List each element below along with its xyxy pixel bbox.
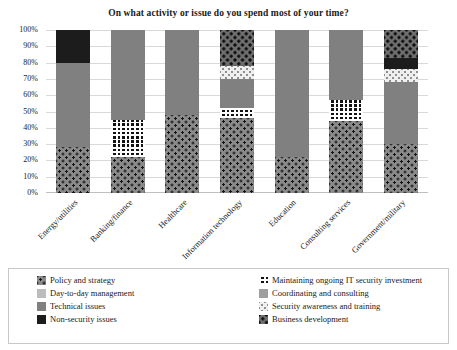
- legend-item-busdev: Business development: [259, 313, 422, 325]
- x-axis-tick-text: Energy/utilities: [36, 198, 79, 241]
- bar-segment-policy: [275, 157, 309, 193]
- x-axis-tick-text: Government/military: [350, 198, 407, 255]
- bar-segment-nonsecurity: [384, 58, 418, 69]
- legend-item-technical: Technical issues: [37, 300, 134, 312]
- y-axis-tick-label: 0%: [27, 189, 38, 197]
- legend-label: Security awareness and training: [272, 301, 380, 311]
- y-axis-tick-label: 60%: [23, 91, 38, 99]
- x-axis-tick-text: Education: [267, 198, 298, 229]
- x-axis-tick-text: Healthcare: [156, 198, 188, 230]
- x-axis-tick-text: Banking/finance: [88, 198, 134, 244]
- legend-label: Policy and strategy: [50, 275, 115, 285]
- legend-item-awareness: Security awareness and training: [259, 300, 422, 312]
- chart-title: On what activity or issue do you spend m…: [0, 8, 457, 18]
- legend-swatch-maintaining-icon: [259, 276, 268, 285]
- legend-item-maintaining: Maintaining ongoing IT security investme…: [259, 274, 422, 286]
- legend-item-coordinating: Coordinating and consulting: [259, 287, 422, 299]
- legend-swatch-daytoday-icon: [37, 289, 46, 298]
- stacked-bar-chart: On what activity or issue do you spend m…: [0, 0, 457, 350]
- bar-segment-busdev: [384, 30, 418, 58]
- bar-segment-technical: [111, 30, 145, 120]
- y-axis-tick-label: 100%: [19, 26, 38, 34]
- legend-swatch-coordinating-icon: [259, 289, 268, 298]
- bar-segment-awareness: [220, 66, 254, 79]
- bars-layer: [46, 30, 428, 193]
- legend-swatch-nonsecurity-icon: [37, 315, 46, 324]
- bar-segment-technical: [220, 79, 254, 108]
- y-axis-tick-label: 80%: [23, 59, 38, 67]
- bar-government-military: [384, 30, 418, 193]
- bar-segment-technical: [56, 63, 90, 148]
- y-axis-tick-label: 40%: [23, 124, 38, 132]
- legend-swatch-technical-icon: [37, 302, 46, 311]
- legend-item-nonsecurity: Non-security issues: [37, 313, 134, 325]
- bar-segment-maintaining: [111, 120, 145, 157]
- legend-label: Maintaining ongoing IT security investme…: [272, 275, 422, 285]
- legend-item-policy: Policy and strategy: [37, 274, 134, 286]
- bar-segment-technical: [275, 30, 309, 157]
- y-axis-tick-label: 30%: [23, 140, 38, 148]
- legend-column-right: Maintaining ongoing IT security investme…: [259, 274, 422, 326]
- bar-segment-policy: [329, 121, 363, 193]
- x-axis-labels: Energy/utilitiesBanking/financeHealthcar…: [46, 196, 428, 264]
- legend-label: Technical issues: [50, 301, 105, 311]
- bar-segment-maintaining: [329, 100, 363, 121]
- legend-swatch-policy-icon: [37, 276, 46, 285]
- y-axis: 100%90%80%70%60%50%40%30%20%10%0%: [0, 30, 42, 193]
- bar-segment-policy: [165, 115, 199, 193]
- legend-label: Non-security issues: [50, 314, 117, 324]
- y-axis-tick-label: 90%: [23, 42, 38, 50]
- bar-segment-maintaining: [220, 108, 254, 118]
- chart-legend: Policy and strategyDay-to-day management…: [8, 268, 449, 344]
- x-axis-tick-text: Consulting services: [299, 198, 353, 252]
- bar-healthcare: [165, 30, 199, 193]
- y-axis-tick-label: 20%: [23, 156, 38, 164]
- bar-segment-awareness: [384, 69, 418, 82]
- legend-label: Day-to-day management: [50, 288, 134, 298]
- y-axis-tick-label: 10%: [23, 173, 38, 181]
- bar-information-technology: [220, 30, 254, 193]
- bar-segment-technical: [329, 30, 363, 100]
- x-axis-tick-text: Information technology: [180, 198, 243, 261]
- bar-segment-policy: [384, 144, 418, 193]
- legend-swatch-awareness-icon: [259, 302, 268, 311]
- bar-segment-policy: [56, 147, 90, 193]
- bar-education: [275, 30, 309, 193]
- legend-column-left: Policy and strategyDay-to-day management…: [37, 274, 134, 326]
- legend-label: Business development: [272, 314, 348, 324]
- bar-segment-policy: [111, 157, 145, 193]
- bar-segment-busdev: [220, 30, 254, 66]
- legend-item-daytoday: Day-to-day management: [37, 287, 134, 299]
- bar-energy-utilities: [56, 30, 90, 193]
- bar-consulting-services: [329, 30, 363, 193]
- bar-banking-finance: [111, 30, 145, 193]
- y-axis-tick-label: 50%: [23, 108, 38, 116]
- legend-label: Coordinating and consulting: [272, 288, 369, 298]
- bar-segment-technical: [165, 30, 199, 115]
- legend-swatch-busdev-icon: [259, 315, 268, 324]
- y-axis-tick-label: 70%: [23, 75, 38, 83]
- bar-segment-technical: [384, 82, 418, 144]
- bar-segment-policy: [220, 118, 254, 193]
- bar-segment-nonsecurity: [56, 30, 90, 63]
